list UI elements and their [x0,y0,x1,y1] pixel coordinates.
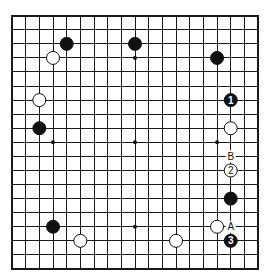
white-stone [47,51,60,64]
move-number: 3 [228,235,234,246]
white-stone-icon [47,51,60,64]
move-number: 1 [228,95,234,106]
white-stone [33,94,46,107]
star-point [215,140,219,144]
marker-letter: B [227,151,234,162]
black-stone-1: 1 [224,94,237,107]
black-stone-icon [60,37,73,50]
black-stone-icon [129,37,142,50]
white-stone [74,234,87,247]
marker-b: B [226,150,236,162]
star-point [133,56,137,60]
move-number: 2 [228,165,234,176]
black-stone-icon [224,192,237,205]
black-stone [129,37,142,50]
white-stone-icon [170,234,183,247]
marker-a: A [226,221,236,233]
star-point [133,140,137,144]
black-stone-icon [211,51,224,64]
black-stone [33,122,46,135]
white-stone [224,122,237,135]
go-board-diagram: BA 123 [0,0,266,278]
white-stone-icon [74,234,87,247]
white-stone [170,234,183,247]
black-stone-icon [47,220,60,233]
white-stone-icon [33,94,46,107]
star-point [133,225,137,229]
black-stone [224,192,237,205]
marker-letter: A [227,221,234,232]
white-stone-2: 2 [224,164,237,177]
white-stone [211,220,224,233]
white-stone-icon [211,220,224,233]
white-stone-icon [224,122,237,135]
star-point [51,140,55,144]
black-stone [47,220,60,233]
black-stone-3: 3 [224,234,237,247]
black-stone-icon [33,122,46,135]
black-stone [211,51,224,64]
black-stone [60,37,73,50]
